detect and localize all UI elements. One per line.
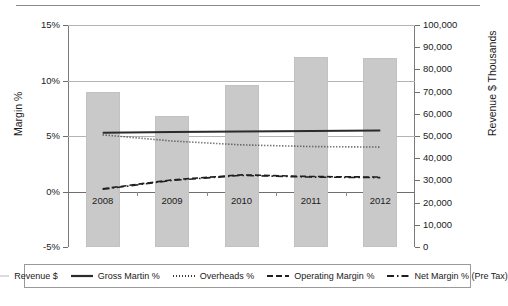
y-tick-label-right: 30,000 [423,175,452,185]
y-tick-label-left: -5% [43,242,60,252]
y-tick-label-right: 80,000 [423,64,452,74]
y-tick-label-right: 50,000 [423,131,452,141]
y-tick-right [415,92,420,93]
y-tick-right [415,25,420,26]
chart-legend: Revenue $Gross Martin %Overheads %Operat… [24,264,471,288]
y-tick-right [415,47,420,48]
legend-label: Gross Martin % [98,272,160,281]
y-tick-right [415,158,420,159]
y-tick-right [415,114,420,115]
legend-item[interactable]: Overheads % [173,272,255,281]
y-tick-label-right: 10,000 [423,220,452,230]
legend-item[interactable]: Operating Margin % [267,272,374,281]
legend-item[interactable]: Revenue $ [0,272,58,281]
y-tick-right [415,136,420,137]
y-tick-label-left: 15% [41,20,60,30]
y-tick-label-left: 10% [41,76,60,86]
header-divider [16,5,480,6]
x-axis-label-2012: 2012 [355,196,405,206]
legend-label: Operating Margin % [294,272,374,281]
category-labels: 20082009201020112012 [68,25,415,247]
y-tick-left [63,247,68,248]
y-tick-label-right: 20,000 [423,198,452,208]
legend-item[interactable]: Gross Martin % [71,272,160,281]
legend-item[interactable]: Net Margin % (Pre Tax) [387,272,507,281]
y-tick-label-right: 60,000 [423,109,452,119]
y-tick-right [415,69,420,70]
x-tick [276,192,277,196]
x-tick [346,192,347,196]
x-axis-label-2008: 2008 [78,196,128,206]
x-tick [207,192,208,196]
legend-label: Overheads % [200,272,255,281]
y-tick-label-right: 70,000 [423,87,452,97]
dashdot-line-swatch [387,272,409,280]
y-tick-right [415,203,420,204]
thin-line-swatch [0,272,9,280]
solid-line-swatch [71,272,93,280]
y-axis-left-title: Margin % [12,92,24,136]
plot-area: -5%0%5%10%15% 010,00020,00030,00040,0005… [68,25,415,247]
legend-label: Revenue $ [14,272,58,281]
y-tick-right [415,180,420,181]
y-tick-label-left: 5% [46,131,60,141]
y-tick-label-right: 90,000 [423,42,452,52]
dotted-line-swatch [173,272,195,280]
x-axis-label-2011: 2011 [286,196,336,206]
dashed-line-swatch [267,272,289,280]
x-axis-label-2009: 2009 [147,196,197,206]
x-axis-label-2010: 2010 [217,196,267,206]
x-tick [137,192,138,196]
y-tick-label-right: 0 [423,242,428,252]
y-tick-label-right: 100,000 [423,20,457,30]
y-tick-label-left: 0% [46,187,60,197]
legend-label: Net Margin % (Pre Tax) [414,272,507,281]
y-tick-right [415,247,420,248]
y-axis-right-title: Revenue $ Thousands [486,31,498,136]
y-tick-right [415,225,420,226]
y-tick-label-right: 40,000 [423,153,452,163]
